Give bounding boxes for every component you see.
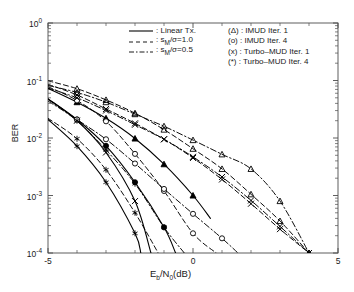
chart-legend: : Linear Tx.: sM/σ=1.0: sM/σ=0.5 (Δ) : I… [128,26,340,68]
x-axis-label: Eb/N0(dB) [150,268,191,281]
legend-line-sample-solid [128,26,154,36]
series-10 [48,88,312,256]
legend-marker-column: (Δ) : IMUD Iter. 1(o) : IMUD Iter. 4(x) … [228,26,340,68]
series-layer [48,81,312,256]
legend-sample-holder [128,47,154,57]
series-line [48,119,141,253]
ber-chart-figure: BER Eb/N0(dB) 10010-110-210-310-4 -505 :… [0,0,354,292]
marker-circle [219,236,224,241]
legend-line-sample-dashed [128,37,154,47]
legend-linestyle-label: : sM/σ=0.5 [156,45,193,58]
series-line [48,85,309,253]
series-8 [48,85,312,255]
legend-line-sample-dashdot [128,47,154,57]
series-line [48,88,309,253]
marker-circle [190,231,195,236]
y-tick-label: 100 [16,17,42,29]
series-line [48,99,151,253]
series-9 [48,99,238,253]
marker-circle [103,137,108,142]
series-group [48,81,312,256]
legend-linestyle-row: : sM/σ=0.5 [128,47,220,57]
legend-marker-label: (Δ) : IMUD Iter. 1 [228,26,288,36]
series-6 [48,84,312,256]
marker-circle [132,151,137,156]
marker-circle [161,186,166,191]
x-tick-label: -5 [38,256,58,266]
legend-marker-label: (*) : Turbo–MUD Iter. 4 [228,57,308,67]
x-tick-label: 5 [328,256,348,266]
x-tick-label: 0 [183,256,203,266]
x-axis-label-unit: (dB) [173,268,191,279]
marker-circle [132,161,137,166]
y-tick-label: 10-2 [16,132,42,144]
y-tick-label: 10-3 [16,190,42,202]
marker-circle [74,98,79,103]
legend-marker-label: (o) : IMUD Iter. 4 [228,36,287,46]
legend-sample-holder [128,26,154,36]
legend-marker-row: (Δ) : IMUD Iter. 1 [228,26,340,36]
legend-marker-row: (*) : Turbo–MUD Iter. 4 [228,57,340,67]
y-tick-label: 10-1 [16,75,42,87]
legend-marker-label: (x) : Turbo–MUD Iter. 1 [228,47,309,57]
series-2 [48,99,151,253]
legend-linestyle-column: : Linear Tx.: sM/σ=1.0: sM/σ=0.5 [128,26,220,57]
legend-sample-holder [128,37,154,47]
legend-marker-row: (x) : Turbo–MUD Iter. 1 [228,47,340,57]
series-3 [48,119,141,253]
marker-circle [190,211,195,216]
series-line [48,84,309,253]
legend-marker-row: (o) : IMUD Iter. 4 [228,36,340,46]
marker-circle [103,119,108,124]
